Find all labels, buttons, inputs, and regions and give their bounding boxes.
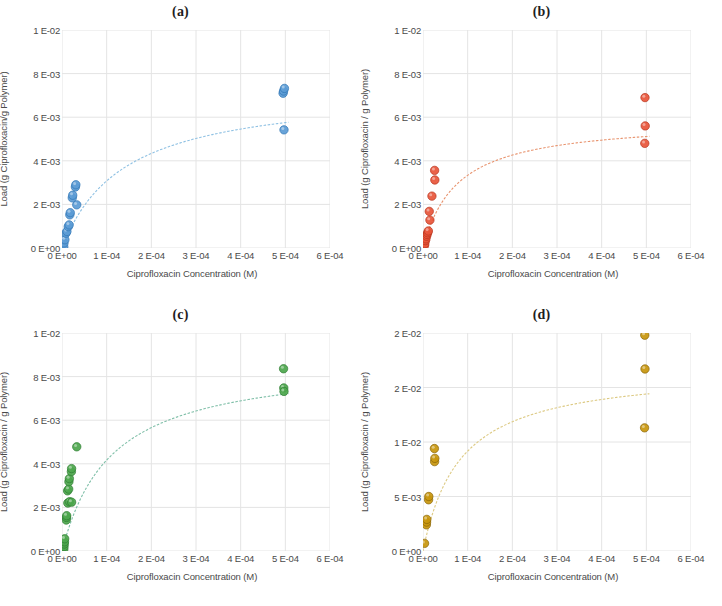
fit-curve-b [423,136,649,248]
x-tick-d-0: 0 E+00 [408,553,437,564]
marker-highlight [68,210,71,213]
marker-highlight [69,499,72,502]
plot-area-d [423,333,691,551]
marker-highlight [432,167,435,170]
y-tick-d-1: 5 E-03 [394,491,421,502]
x-tick-a-4: 4 E-04 [227,250,254,261]
x-tick-d-4: 4 E-04 [588,553,615,564]
data-point [641,122,649,130]
data-point [67,498,75,506]
x-tick-c-2: 2 E-04 [138,553,165,564]
panel-title-a: (a) [0,4,361,20]
marker-highlight [282,86,285,89]
marker-highlight [427,217,430,220]
y-tick-labels-d: 0 E+005 E-031 E-022 E-022 E-02 [375,333,421,551]
data-point [280,126,288,134]
data-points-d [423,333,649,548]
data-point [65,221,73,229]
chart-panel-d: (d) Load (g Ciprofloxacin / g Polymer) 0… [361,303,722,606]
x-tick-d-5: 5 E-04 [633,553,660,564]
y-tick-labels-b: 0 E+002 E-034 E-036 E-038 E-031 E-02 [375,30,421,248]
scatter-svg-d [423,333,691,551]
data-point [279,365,287,373]
data-point [423,515,431,523]
fit-curve-c [62,394,288,551]
data-point [73,201,81,209]
marker-highlight [73,182,76,185]
y-tick-d-3: 2 E-02 [394,382,421,393]
marker-highlight [66,222,69,225]
y-tick-c-5: 1 E-02 [33,328,60,339]
x-tick-c-6: 6 E-04 [317,553,344,564]
data-point [72,181,80,189]
marker-highlight [643,123,646,126]
plot-area-a [62,30,330,248]
y-tick-c-2: 4 E-03 [33,458,60,469]
x-tick-b-3: 3 E-04 [544,250,571,261]
data-points-a [62,84,289,248]
marker-highlight [281,366,284,369]
marker-highlight [432,455,435,458]
x-tick-d-3: 3 E-04 [544,553,571,564]
x-axis-title-c: Ciprofloxacin Concentration (M) [42,571,342,582]
data-point [66,208,74,216]
x-tick-labels-b: 0 E+001 E-042 E-043 E-044 E-045 E-046 E-… [423,250,691,264]
y-tick-labels-a: 0 E+002 E-034 E-036 E-038 E-031 E-02 [14,30,60,248]
x-tick-d-2: 2 E-04 [499,553,526,564]
x-tick-b-1: 1 E-04 [454,250,481,261]
x-tick-b-2: 2 E-04 [499,250,526,261]
x-tick-c-5: 5 E-04 [272,553,299,564]
data-point [280,387,288,395]
marker-highlight [426,228,429,231]
fit-curve-d [423,394,649,551]
marker-highlight [74,202,77,205]
panel-title-c: (c) [0,307,361,323]
marker-highlight [424,516,427,519]
marker-highlight [429,193,432,196]
y-axis-title-c: Load (g Ciprofloxacin / g Polymer) [0,333,12,551]
y-tick-c-1: 2 E-03 [33,502,60,513]
y-tick-labels-c: 0 E+002 E-034 E-036 E-038 E-031 E-02 [14,333,60,551]
data-point [73,443,81,451]
data-point [424,227,432,235]
x-axis-title-a: Ciprofloxacin Concentration (M) [42,268,342,279]
data-point [426,216,434,224]
data-point [69,191,77,199]
x-tick-a-0: 0 E+00 [47,250,76,261]
scatter-svg-b [423,30,691,248]
scatter-svg-c [62,333,330,551]
marker-highlight [64,513,67,516]
y-tick-a-4: 8 E-03 [33,68,60,79]
x-tick-d-6: 6 E-04 [678,553,705,564]
data-point [641,365,649,373]
x-tick-c-4: 4 E-04 [227,553,254,564]
marker-highlight [66,486,69,489]
x-tick-c-3: 3 E-04 [183,553,210,564]
x-tick-a-5: 5 E-04 [272,250,299,261]
data-point [641,93,649,101]
y-tick-a-2: 4 E-03 [33,155,60,166]
data-point [67,464,75,472]
x-axis-title-b: Ciprofloxacin Concentration (M) [403,268,703,279]
x-tick-a-1: 1 E-04 [93,250,120,261]
data-point [425,492,433,500]
x-tick-a-6: 6 E-04 [317,250,344,261]
fit-curve-a [62,122,288,248]
x-tick-b-6: 6 E-04 [678,250,705,261]
y-tick-b-5: 1 E-02 [394,25,421,36]
x-tick-labels-c: 0 E+001 E-042 E-043 E-044 E-045 E-046 E-… [62,553,330,567]
data-point [641,139,649,147]
y-axis-title-d: Load (g Ciprofloxacin / g Polymer) [359,333,373,551]
marker-highlight [642,95,645,98]
data-point [431,454,439,462]
x-tick-b-4: 4 E-04 [588,250,615,261]
marker-highlight [70,192,73,195]
panel-title-b: (b) [361,4,722,20]
data-points-b [423,93,649,248]
x-tick-labels-d: 0 E+001 E-042 E-043 E-044 E-045 E-046 E-… [423,553,691,567]
y-axis-title-b: Load (g Ciprofloxacin / g Polymer) [359,30,373,248]
marker-highlight [67,476,70,479]
chart-panel-a: (a) Load (g Ciprofloxacin/g Polymer) 0 E… [0,0,361,303]
y-tick-b-4: 8 E-03 [394,68,421,79]
data-point [428,192,436,200]
